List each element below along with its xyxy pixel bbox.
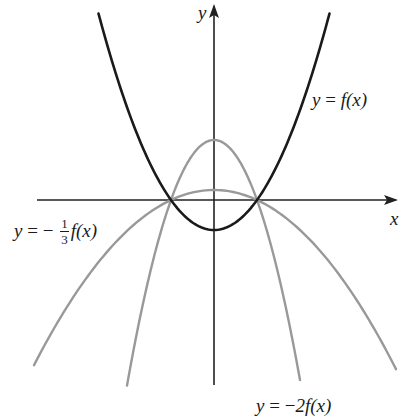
label-neg-third-f: y = − 13f(x): [14, 218, 97, 247]
fraction-one-third: 13: [60, 217, 69, 246]
label-neg-two-f: y = −2f(x): [256, 396, 331, 415]
plot-canvas: [0, 0, 412, 418]
function-transformation-figure: y x y = f(x) y = − 13f(x) y = −2f(x): [0, 0, 412, 418]
curve-neg-third-f: [34, 190, 396, 369]
label-f: y = f(x): [312, 90, 367, 109]
y-axis-label: y: [198, 3, 206, 22]
x-axis-label: x: [390, 209, 398, 228]
